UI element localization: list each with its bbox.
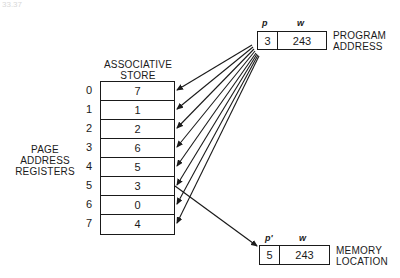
arrow-layer (0, 0, 400, 278)
match-output-arrow (175, 186, 257, 246)
